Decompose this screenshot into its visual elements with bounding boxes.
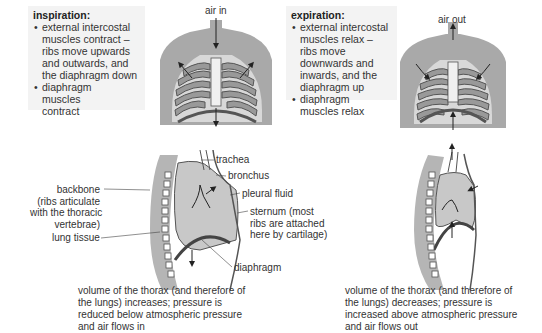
pleural-fluid-label: pleural fluid [242,188,293,200]
backbone-label-line: vertebrae) [30,219,100,231]
trachea-label: trachea [216,154,249,166]
backbone-label-line: with the thoracic [30,207,100,219]
sternum-label-line: sternum (most [250,206,327,218]
diaphragm-label: diaphragm [234,262,281,274]
inspiration-ribcage-icon [160,18,272,125]
expiration-ribcage-icon [400,22,506,130]
sternum-label: sternum (most ribs are attached here by … [250,206,327,241]
expiration-caption: volume of the thorax (and therefore of t… [345,285,525,333]
lung-tissue-label: lung tissue [52,232,100,244]
backbone-label-line: backbone [30,184,100,196]
inspiration-side-view-icon [150,150,240,290]
sternum-label-line: ribs are attached [250,218,327,230]
sternum-label-line: here by cartilage) [250,229,327,241]
air-in-label: air in [205,5,227,17]
inspiration-caption: volume of the thorax (and therefore of t… [78,285,250,333]
air-out-label: air out [438,14,466,26]
backbone-label-line: (ribs articulate [30,196,100,208]
backbone-label: backbone (ribs articulate with the thora… [30,184,100,230]
expiration-side-view-icon [414,146,478,290]
bronchus-label: bronchus [228,170,269,182]
